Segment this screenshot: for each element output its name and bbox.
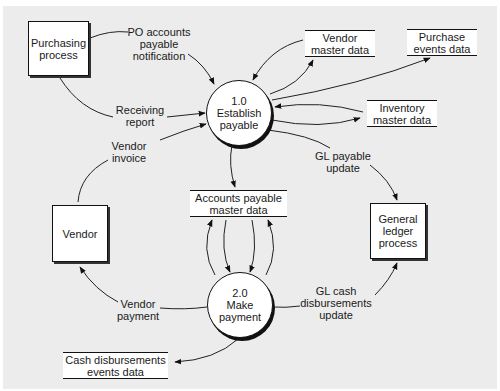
flow-po-notification-a [90,32,128,38]
flow-1-to-vendormaster [270,60,313,94]
flow-ap-to-2-b [250,220,255,272]
flow-label-gl-cash-disbursements-update: GL cash disbursements update [298,285,374,321]
flow-2-to-ap-b [266,220,274,275]
store-inventory-master-data: Inventory master data [367,100,437,127]
process-number: 1.0 [231,95,246,107]
process-number: 2.0 [232,287,247,299]
process-name: Establish payable [217,107,262,131]
store-accounts-payable-master-data: Accounts payable master data [190,190,287,217]
flow-vendor-payment-a [160,307,207,309]
flow-gl-cash-a [274,306,300,307]
flow-inventory-to-1 [275,104,363,112]
process-make-payment: 2.0 Make payment [207,272,273,338]
flow-vendor-invoice-b [78,160,108,202]
process-name: Make payment [219,299,261,323]
flow-receiving-report-a [60,78,113,117]
flow-vendormaster-to-1 [253,40,303,80]
flow-1-to-apmaster [231,145,235,187]
flow-label-receiving-report: Receiving report [112,104,168,128]
store-cash-disbursements-events-data: Cash disbursements events data [63,352,168,379]
flow-2-to-cashevents [175,339,238,362]
entity-vendor: Vendor [52,205,108,262]
flow-label-po-notification: PO accounts payable notification [124,26,194,62]
flow-1-to-inventory [272,118,360,125]
store-vendor-master-data: Vendor master data [305,30,375,57]
flow-label-vendor-payment: Vendor payment [113,298,163,322]
flow-label-vendor-invoice: Vendor invoice [104,140,154,164]
flow-2-to-ap-a [207,220,215,275]
entity-purchasing-process: Purchasing process [28,21,89,76]
flow-label-gl-payable-update: GL payable update [308,150,378,174]
process-establish-payable: 1.0 Establish payable [206,80,272,146]
store-purchase-events-data: Purchase events data [407,29,477,56]
flow-gl-payable-a [268,130,330,148]
flow-1-to-purchaseevents [272,58,430,100]
flow-vendor-payment-b [80,267,118,302]
flow-ap-to-2-a [224,220,230,272]
entity-general-ledger-process: General ledger process [370,203,426,259]
flow-gl-cash-b [375,263,397,295]
flow-receiving-report-b [167,113,205,117]
